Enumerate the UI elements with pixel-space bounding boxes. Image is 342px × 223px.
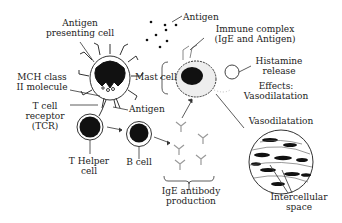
label-mhc-line1: MCH class	[12, 72, 72, 82]
label-hist-line2: release	[251, 66, 307, 76]
label-mhc-line2: II molecule	[12, 82, 72, 92]
label-immune-complex: Immune complex (IgE and Antigen)	[210, 24, 300, 44]
label-th-line2: cell	[62, 166, 116, 176]
label-intercellular: Intercellular space	[266, 192, 332, 212]
label-th-line1: T Helper	[62, 156, 116, 166]
label-mast-cell: Mast cell	[135, 72, 177, 82]
label-hist-line1: Histamine	[251, 56, 307, 66]
label-tcr-line2: receptor	[22, 111, 68, 121]
label-histamine: Histamine release	[251, 56, 307, 76]
label-apc: Antigen presenting cell	[45, 18, 115, 38]
label-ic-line1: Immune complex	[210, 24, 300, 34]
label-vasodilatation: Vasodilatation	[236, 116, 326, 126]
label-effects-line1: Effects:	[240, 81, 312, 91]
ige-antibody-icon	[174, 122, 208, 170]
label-mhc: MCH class II molecule	[12, 72, 72, 92]
label-inter-line1: Intercellular	[266, 192, 332, 202]
label-ige-line2: production	[158, 196, 224, 206]
label-tcr-line1: T cell	[22, 101, 68, 111]
label-ige-line1: IgE antibody	[158, 186, 224, 196]
label-tcr-line3: (TCR)	[22, 121, 68, 131]
label-t-helper: T Helper cell	[62, 156, 116, 176]
t-helper-cell-icon	[77, 114, 103, 140]
label-apc-line1: Antigen	[45, 18, 115, 28]
vasodilatation-tissue-icon	[249, 130, 313, 194]
histamine-vesicle-icon	[225, 65, 239, 79]
label-b-cell: B cell	[118, 157, 160, 167]
label-ige-production: IgE antibody production	[158, 186, 224, 206]
label-ic-line2: (IgE and Antigen)	[210, 34, 300, 44]
label-apc-line2: presenting cell	[45, 28, 115, 38]
label-effects-line2: Vasodilatation	[240, 91, 312, 101]
b-cell-icon	[127, 122, 152, 147]
label-tcr: T cell receptor (TCR)	[22, 101, 68, 131]
label-effects: Effects: Vasodilatation	[240, 81, 312, 101]
mast-cell-icon	[176, 45, 230, 97]
label-antigen-top: Antigen	[183, 12, 219, 22]
antigen-dots-icon	[146, 21, 178, 49]
label-inter-line2: space	[266, 202, 332, 212]
label-antigen-apc: Antigen	[129, 104, 165, 114]
